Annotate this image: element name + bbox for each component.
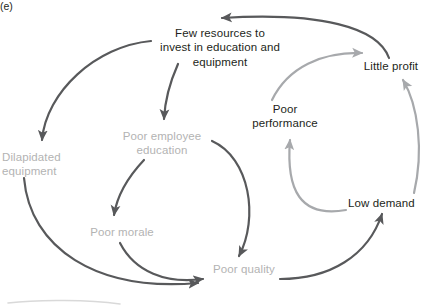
panel-label: (e) — [0, 0, 13, 12]
node-little-profit: Little profit — [340, 59, 442, 73]
node-poor-performance: Poor performance — [234, 102, 336, 131]
edge-few-resources-to-dilapidated-equipment — [42, 41, 151, 140]
node-poor-employee-education: Poor employee education — [110, 129, 214, 158]
edge-poor-quality-to-low-demand — [280, 214, 382, 279]
node-few-resources: Few resources to invest in education and… — [136, 26, 304, 69]
node-poor-quality: Poor quality — [194, 262, 294, 276]
edge-poor-employee-education-to-poor-morale — [114, 160, 144, 215]
causal-loop-diagram: (e) Few resources to invest in education… — [0, 0, 445, 308]
cropped-caption-stroke — [8, 300, 120, 304]
edge-low-demand-to-little-profit — [403, 80, 419, 193]
node-dilapidated-equipment: Dilapidated equipment — [2, 150, 98, 179]
edge-poor-morale-to-poor-quality — [120, 243, 203, 280]
node-poor-morale: Poor morale — [72, 225, 172, 239]
edge-poor-employee-education-to-poor-quality — [212, 141, 249, 256]
edge-low-demand-to-poor-performance — [289, 140, 346, 211]
edge-few-resources-to-poor-employee-education — [164, 64, 178, 119]
node-low-demand: Low demand — [348, 196, 444, 210]
